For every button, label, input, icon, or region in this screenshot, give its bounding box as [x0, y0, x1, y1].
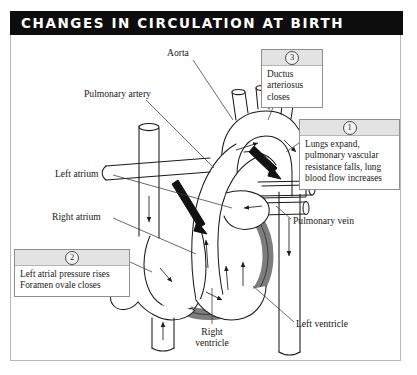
- callout-1-header: 1: [300, 120, 399, 136]
- label-pulmonary-vein: Pulmonary vein: [293, 215, 354, 226]
- label-right-atrium: Right atrium: [52, 211, 101, 222]
- leader-pulmonary-vein: [276, 206, 291, 219]
- callout-3-number: 3: [285, 51, 299, 65]
- callout-1-text: Lungs expand, pulmonary vascular resista…: [300, 136, 399, 189]
- label-pulmonary-artery: Pulmonary artery: [84, 88, 151, 99]
- brachiocephalic-opening: [232, 89, 245, 94]
- svc-opening: [139, 123, 159, 130]
- callout-box-2: 2 Left atrial pressure rises Foramen ova…: [14, 249, 130, 297]
- callout-3-text: Ductus arteriosus closes: [262, 66, 322, 107]
- callout-2-header: 2: [15, 250, 129, 266]
- label-aorta: Aorta: [167, 47, 189, 58]
- label-left-atrium: Left atrium: [55, 168, 98, 179]
- label-right-ventricle: Right ventricle: [186, 326, 238, 348]
- left-pulmonary-artery: [106, 158, 210, 180]
- figure-panel: CHANGES IN CIRCULATION AT BIRTH: [0, 0, 417, 375]
- left-atrium: [224, 191, 269, 229]
- callout-3-header: 3: [262, 50, 322, 66]
- label-left-ventricle: Left ventricle: [296, 318, 348, 329]
- right-atrium: [144, 236, 192, 310]
- callout-1-number: 1: [343, 121, 357, 135]
- callout-box-1: 1 Lungs expand, pulmonary vascular resis…: [299, 119, 400, 190]
- lpa-cap: [102, 166, 106, 180]
- pulmonary-vein-lower-opening: [303, 202, 309, 215]
- callout-2-number: 2: [65, 251, 79, 265]
- callout-2-text: Left atrial pressure rises Foramen ovale…: [15, 266, 129, 296]
- callout-box-3: 3 Ductus arteriosus closes: [261, 49, 323, 108]
- descending-aorta-bottom: [279, 352, 300, 355]
- leader-aorta: [193, 60, 233, 120]
- ivc-bottom: [152, 348, 174, 351]
- leader-pulmonary-artery: [146, 100, 214, 168]
